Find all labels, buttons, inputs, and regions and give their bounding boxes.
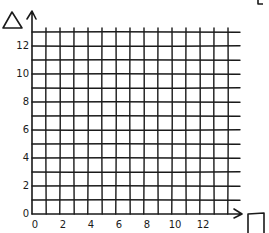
grid-lines (32, 28, 240, 214)
x-tick-label: 12 (193, 220, 213, 230)
triangle-icon (3, 12, 22, 28)
corner-fragment-icon (258, 0, 263, 4)
grid-line-horizontal (32, 46, 240, 47)
x-tick-label: 10 (165, 220, 185, 230)
square-icon (248, 213, 264, 233)
y-tick-label: 12 (9, 41, 29, 51)
y-tick-label: 8 (9, 97, 29, 107)
grid-line-horizontal (32, 172, 240, 173)
y-tick-label: 0 (9, 209, 29, 219)
y-tick-label: 4 (9, 153, 29, 163)
coordinate-grid-diagram (0, 0, 269, 233)
x-tick-label: 4 (81, 220, 101, 230)
x-tick-label: 0 (25, 220, 45, 230)
x-tick-label: 6 (109, 220, 129, 230)
grid-line-horizontal (32, 88, 240, 89)
y-tick-label: 2 (9, 181, 29, 191)
grid-line-horizontal (32, 130, 240, 131)
x-tick-label: 8 (137, 220, 157, 230)
axes (27, 11, 242, 218)
x-tick-label: 2 (53, 220, 73, 230)
y-tick-label: 6 (9, 125, 29, 135)
y-tick-label: 10 (9, 69, 29, 79)
x-axis-arrow-icon (32, 209, 242, 218)
